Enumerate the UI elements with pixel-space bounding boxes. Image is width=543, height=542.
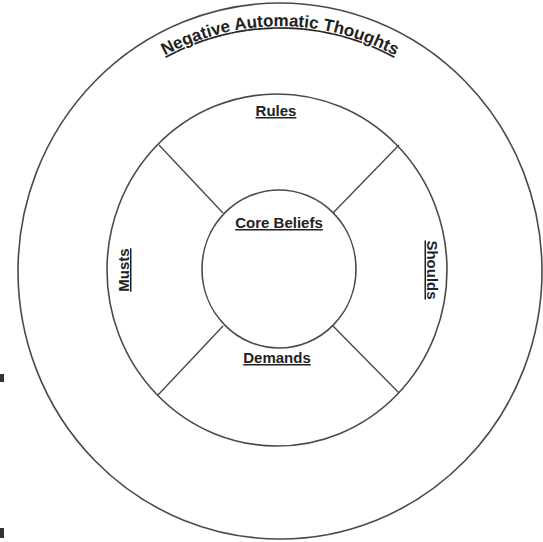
middle-ring <box>107 94 447 446</box>
demands-label: Demands <box>243 349 311 366</box>
outer-ring <box>18 3 542 539</box>
divider-upper-right <box>333 145 399 213</box>
shoulds-label: Shoulds <box>424 240 441 299</box>
musts-label: Musts <box>115 248 132 291</box>
core-beliefs-label: Core Beliefs <box>235 214 323 231</box>
divider-lower-right <box>333 326 399 393</box>
divider-upper-left <box>159 145 223 213</box>
page-edge-mark-bottom <box>0 528 4 538</box>
divider-lower-left <box>158 326 223 395</box>
rules-label: Rules <box>256 102 297 119</box>
core-beliefs-diagram: Negative Automatic Thoughts Rules Musts … <box>0 0 543 542</box>
page-edge-mark-top <box>0 374 4 382</box>
